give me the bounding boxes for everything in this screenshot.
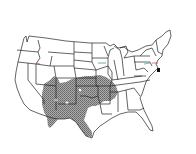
range-gap [79, 89, 81, 91]
ut-co [50, 66, 56, 78]
sd-ne [74, 60, 92, 62]
teal-border-segment [144, 63, 150, 64]
us-range-map [0, 0, 196, 154]
new-england [152, 40, 162, 56]
idaho [36, 40, 52, 66]
wy-co [54, 66, 76, 78]
wa-or-border [17, 50, 38, 52]
ne-ks [74, 68, 96, 70]
dark-marker [157, 68, 160, 72]
mt-wy [48, 52, 74, 54]
wi-mi [104, 46, 128, 58]
nd-sd [74, 52, 92, 53]
il-in-oh [108, 48, 136, 80]
or-ca-border [18, 62, 36, 64]
ga-fl [126, 88, 144, 110]
la [100, 104, 112, 114]
ia-mo [92, 58, 108, 70]
tn-ky [110, 76, 142, 86]
